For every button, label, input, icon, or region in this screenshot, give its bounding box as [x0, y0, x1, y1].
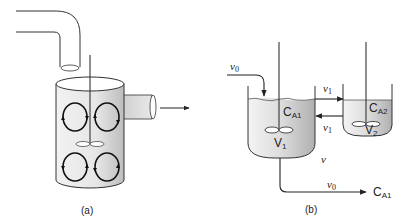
inlet-flow-label: v0 [230, 60, 239, 74]
outlet-flow-label: v0 [327, 178, 336, 192]
caption-b: (b) [305, 204, 317, 215]
panel-a: (a) [16, 11, 189, 216]
outlet-concentration-label: CA1 [373, 185, 392, 200]
outlet-pipe [123, 95, 156, 119]
flow-back-label: v1 [323, 121, 332, 135]
inlet-flow-arrow-icon [227, 75, 264, 96]
caption-a: (a) [81, 205, 93, 216]
mid-flow-label: v [321, 153, 326, 165]
panel-b: v0 v1 v1 CA1 V1 CA2 V2 v v0 CA1 (b) [227, 42, 392, 215]
flow-to-tank2-label: v1 [323, 82, 332, 96]
reactor-diagram: (a) v0 v1 [0, 0, 402, 223]
inlet-pipe [16, 11, 80, 71]
